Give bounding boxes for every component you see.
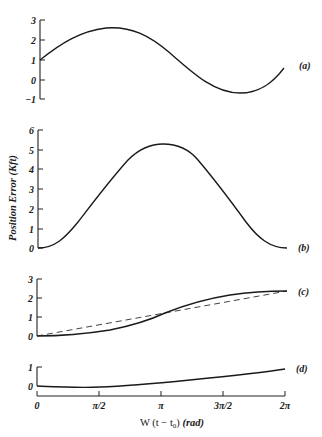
- panel-a-ytick-neg1: −1: [25, 94, 36, 105]
- panel-b-ytick-4: 4: [28, 164, 34, 175]
- panel-c-label: (c): [298, 286, 309, 298]
- xtick-pi: π: [158, 400, 164, 411]
- panel-b-ytick-5: 5: [29, 145, 34, 156]
- panel-b-ytick-2: 2: [28, 204, 34, 215]
- panel-c-ytick-3: 3: [27, 274, 33, 285]
- panel-c-ytick-2: 2: [27, 293, 33, 304]
- y-axis-title: Position Error (Kft): [7, 155, 19, 241]
- panel-d: 1 0 (d): [28, 362, 308, 392]
- panel-b-ytick-1: 1: [29, 224, 34, 235]
- panel-d-curve: [37, 369, 285, 387]
- panel-c-ytick-1: 1: [28, 312, 33, 323]
- panel-c: 3 2 1 0 (c): [27, 274, 309, 342]
- x-axis-title: W (t − t0) (rad): [140, 417, 204, 430]
- panel-d-ytick-0: 0: [28, 381, 33, 392]
- panel-a-ytick-3: 3: [30, 15, 36, 26]
- panel-c-y-ticks: [37, 279, 42, 317]
- panel-a: 3 2 1 0 −1 (a): [25, 15, 311, 105]
- panel-b-ytick-0: 0: [29, 243, 34, 254]
- xtick-pi-half: π/2: [92, 400, 105, 411]
- panel-b-ytick-3: 3: [28, 184, 34, 195]
- xtick-3pi-half: 3π/2: [213, 400, 232, 411]
- x-axis-ticks: [37, 391, 285, 396]
- xtick-2pi: 2π: [279, 400, 291, 411]
- panel-a-ytick-0: 0: [31, 75, 36, 86]
- panel-b-ytick-6: 6: [29, 125, 34, 136]
- panel-a-ytick-1: 1: [31, 55, 36, 66]
- panel-b-curve: [38, 144, 287, 248]
- panel-b-y-ticks: [38, 130, 43, 229]
- figure-canvas: Position Error (Kft) 3 2 1 0 −1 (a) 6 5 …: [0, 0, 322, 437]
- panel-d-ytick-1: 1: [28, 362, 33, 373]
- panel-d-label: (d): [296, 363, 308, 375]
- x-axis: 0 π/2 π 3π/2 2π W (t − t0) (rad): [35, 391, 291, 430]
- xtick-0: 0: [35, 400, 40, 411]
- panel-a-curve: [40, 28, 284, 93]
- panel-c-ytick-0: 0: [28, 331, 33, 342]
- panel-a-label: (a): [299, 60, 311, 72]
- panel-b: 6 5 4 3 2 1 0 (b): [28, 125, 310, 254]
- panel-b-label: (b): [298, 242, 310, 254]
- panel-a-ytick-2: 2: [30, 35, 36, 46]
- panel-c-dashed-line: [37, 291, 287, 336]
